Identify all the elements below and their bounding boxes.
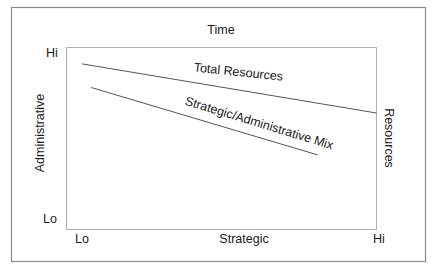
x-axis-title: Strategic: [219, 232, 268, 246]
y-axis-left-title: Administrative: [33, 94, 47, 173]
y-axis-low-label: Lo: [43, 212, 57, 226]
x-axis-high-label: Hi: [373, 232, 385, 246]
x-axis-low-label: Lo: [75, 232, 89, 246]
diagram-title: Time: [207, 23, 234, 37]
y-axis-high-label: Hi: [46, 46, 58, 60]
y-axis-right-title: Resources: [382, 108, 396, 168]
time-resource-diagram: Time Hi Lo Administrative Resources Lo S…: [0, 0, 434, 268]
